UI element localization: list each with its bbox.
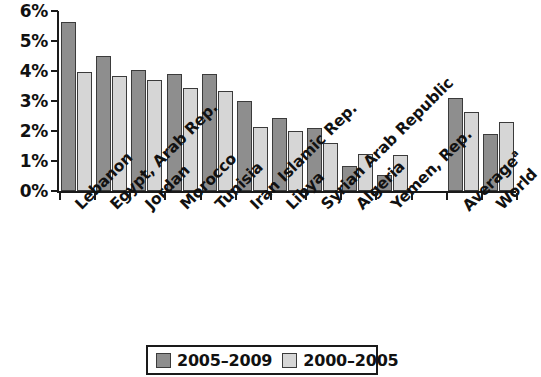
bar-group <box>305 11 340 191</box>
y-tick-label: 1% <box>20 153 48 170</box>
chart-legend: 2005–2009 2000–2005 <box>146 345 378 375</box>
bar <box>61 22 76 192</box>
y-tick-label: 3% <box>20 93 48 110</box>
x-tick-mark <box>129 193 131 200</box>
legend-item-label: 2005–2009 <box>177 351 272 370</box>
x-tick-mark <box>305 193 307 200</box>
x-tick-mark <box>235 193 237 200</box>
x-tick-mark <box>411 193 413 200</box>
x-tick-mark <box>375 193 377 200</box>
legend-item-label: 2000–2005 <box>303 351 398 370</box>
x-tick-mark <box>516 193 518 200</box>
y-tick-mark <box>51 100 58 102</box>
legend-item: 2005–2009 <box>156 351 272 370</box>
footnote-marker: a <box>508 147 520 159</box>
bar <box>77 72 92 191</box>
y-tick-label: 6% <box>20 3 48 20</box>
light-gray-swatch <box>282 353 297 368</box>
x-tick-mark <box>59 193 61 200</box>
x-tick-mark <box>94 193 96 200</box>
y-tick-label: 2% <box>20 123 48 140</box>
y-tick-mark <box>51 130 58 132</box>
bar-group <box>446 11 481 191</box>
y-tick-mark <box>51 160 58 162</box>
y-tick-mark <box>51 70 58 72</box>
bar <box>464 112 479 192</box>
y-tick-mark <box>51 40 58 42</box>
y-axis-tick-labels: 0%1%2%3%4%5%6% <box>0 0 52 202</box>
x-tick-mark <box>200 193 202 200</box>
y-tick-mark <box>51 190 58 192</box>
y-tick-label: 5% <box>20 33 48 50</box>
x-tick-mark <box>270 193 272 200</box>
y-tick-label: 4% <box>20 63 48 80</box>
x-tick-mark <box>164 193 166 200</box>
legend-item: 2000–2005 <box>282 351 398 370</box>
x-tick-mark <box>446 193 448 200</box>
bar-group <box>59 11 94 191</box>
y-tick-mark <box>51 10 58 12</box>
x-tick-mark <box>481 193 483 200</box>
x-tick-mark <box>340 193 342 200</box>
x-axis-tick-labels: LebanonEgypt, Arab Rep.JordanMoroccoTuni… <box>0 196 518 336</box>
dark-gray-swatch <box>156 353 171 368</box>
